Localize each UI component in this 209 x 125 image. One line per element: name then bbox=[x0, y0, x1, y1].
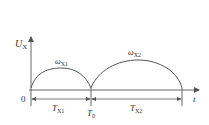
boundary-label: T0 bbox=[87, 108, 95, 119]
period-2-label: TX2 bbox=[130, 103, 142, 114]
y-axis-label: UX bbox=[15, 38, 27, 51]
arch-1-curve bbox=[31, 68, 91, 88]
x-axis-label: t bbox=[193, 94, 196, 104]
arch-2-curve bbox=[91, 60, 182, 88]
arch-2-label: ωX2 bbox=[128, 48, 141, 58]
waveform-diagram: UX 0 t ωX1 ωX2 TX1 TX2 T0 bbox=[0, 0, 209, 125]
period-1-label: TX1 bbox=[52, 103, 64, 114]
arch-1-label: ωX1 bbox=[55, 57, 68, 67]
origin-label: 0 bbox=[21, 94, 26, 104]
